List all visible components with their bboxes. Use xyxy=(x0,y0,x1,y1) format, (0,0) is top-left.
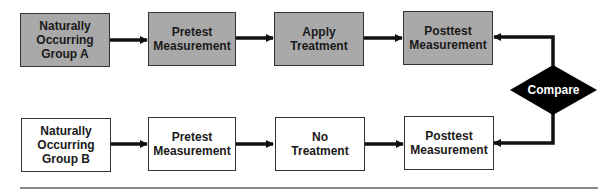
compare-label: Compare xyxy=(510,80,597,100)
node-group-b: Naturally Occurring Group B xyxy=(21,118,111,172)
node-posttest-a: Posttest Measurement xyxy=(403,11,493,65)
node-treatment-b: No Treatment xyxy=(275,117,365,171)
node-pretest-a: Pretest Measurement xyxy=(148,12,236,66)
node-posttest-b: Posttest Measurement xyxy=(404,116,494,170)
bottom-divider xyxy=(20,187,598,189)
arrow-compare-to-posttest-b xyxy=(494,114,553,143)
node-group-a: Naturally Occurring Group A xyxy=(20,13,110,67)
node-treatment-a: Apply Treatment xyxy=(274,12,364,66)
arrow-compare-to-posttest-a xyxy=(494,37,553,66)
node-pretest-b: Pretest Measurement xyxy=(148,117,236,171)
